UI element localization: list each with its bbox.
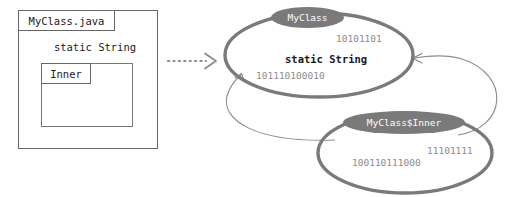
source-file-name-label: MyClass.java bbox=[18, 10, 115, 31]
curved-arrow-up-left-icon bbox=[226, 75, 335, 140]
diagram-canvas: MyClass.java static String Inner MyClass… bbox=[0, 0, 520, 197]
source-file-panel: MyClass.java static String Inner bbox=[18, 10, 158, 149]
source-static-field-label: static String bbox=[19, 41, 157, 53]
runtime-classes-area: MyClass 10101101 static String 101110100… bbox=[215, 0, 520, 197]
myclass-inner-binary-bottom: 100110111000 bbox=[352, 157, 421, 168]
inner-class-name-label: Inner bbox=[41, 63, 91, 84]
inner-class-box: Inner bbox=[41, 63, 133, 127]
runtime-static-field-label: static String bbox=[285, 53, 367, 65]
myclass-inner-label-pill: MyClass$Inner bbox=[343, 111, 465, 134]
myclass-binary-bottom: 101110100010 bbox=[256, 70, 325, 81]
myclass-binary-top: 10101101 bbox=[336, 33, 382, 44]
myclass-label-pill: MyClass bbox=[271, 7, 344, 28]
myclass-inner-binary-top: 11101111 bbox=[427, 145, 473, 156]
